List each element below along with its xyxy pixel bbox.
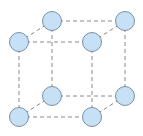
atom-front-top-left (10, 33, 29, 52)
atom-back-top-left (43, 12, 62, 31)
atom-back-top-right (116, 12, 135, 31)
lattice-canvas (0, 0, 143, 136)
lattice-edges (19, 21, 125, 117)
atom-front-top-right (83, 33, 102, 52)
atom-front-bottom-right (83, 108, 102, 127)
atom-front-bottom-left (10, 108, 29, 127)
atom-back-bottom-right (116, 87, 135, 106)
lattice-atoms (10, 12, 135, 127)
atom-back-bottom-left (43, 87, 62, 106)
cubic-lattice-diagram (0, 0, 143, 136)
